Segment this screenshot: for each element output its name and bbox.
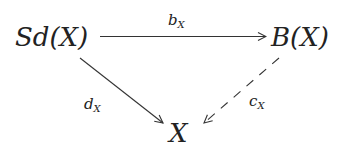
label-d-x: dX: [84, 97, 101, 116]
arrow-c-x: [204, 58, 279, 123]
label-b-x: bX: [168, 13, 185, 32]
node-sd-x: Sd(X): [15, 24, 88, 50]
label-c-x: cX: [249, 94, 265, 113]
node-x: X: [169, 120, 188, 146]
node-b-x: B(X): [271, 24, 329, 50]
